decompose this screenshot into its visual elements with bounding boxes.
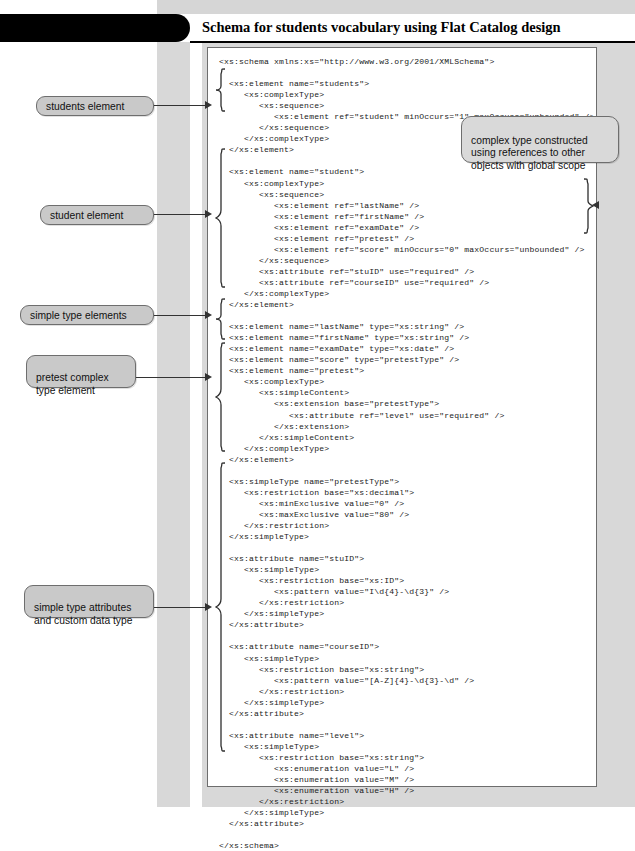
arrow-simple-type-elements bbox=[205, 311, 212, 319]
arrow-student-sequence-refs bbox=[592, 201, 599, 209]
figure-header-rule bbox=[190, 41, 635, 43]
arrow-simple-type-attributes bbox=[205, 603, 212, 611]
callout-simple-type-elements: simple type elements bbox=[20, 305, 154, 325]
leader-students-element bbox=[154, 105, 207, 106]
callout-students-element-label: students element bbox=[46, 101, 124, 112]
gutter-white-strip bbox=[190, 42, 202, 807]
leader-simple-type-attributes bbox=[154, 607, 207, 608]
leader-student-element bbox=[154, 214, 207, 215]
leader-simple-type-elements bbox=[154, 315, 207, 316]
callout-complex-type-note-label: complex type constructed using reference… bbox=[471, 135, 588, 171]
top-right-gray-band bbox=[157, 0, 635, 14]
brace-student-element bbox=[215, 148, 227, 288]
brace-simple-type-attributes bbox=[215, 462, 227, 752]
callout-simple-type-attributes: simple type attributes and custom data t… bbox=[24, 585, 154, 618]
callout-student-element: student element bbox=[40, 205, 154, 225]
left-margin-white-band bbox=[0, 42, 157, 807]
callout-students-element: students element bbox=[36, 96, 154, 116]
brace-students-element bbox=[215, 68, 227, 112]
leader-pretest-complex-type-element bbox=[136, 377, 207, 378]
figure-title: Schema for students vocabulary using Fla… bbox=[202, 19, 561, 36]
callout-student-element-label: student element bbox=[50, 210, 123, 221]
arrow-student-element bbox=[205, 210, 212, 218]
brace-pretest-complex-type-element bbox=[215, 342, 227, 452]
callout-simple-type-elements-label: simple type elements bbox=[30, 310, 127, 321]
brace-simple-type-elements bbox=[215, 298, 227, 340]
arrow-pretest-complex-type-element bbox=[205, 373, 212, 381]
callout-simple-type-attributes-label: simple type attributes and custom data t… bbox=[34, 602, 132, 625]
arrow-students-element bbox=[205, 101, 212, 109]
callout-complex-type-note: complex type constructed using reference… bbox=[461, 116, 619, 163]
callout-pretest-complex-type-element: pretest complex type element bbox=[26, 355, 136, 388]
xml-schema-code: <xs:schema xmlns:xs="http://www.w3.org/2… bbox=[219, 56, 595, 851]
figure-number-tab bbox=[0, 14, 190, 42]
figure-header: Figure 4-1 Schema for students vocabular… bbox=[0, 14, 635, 42]
